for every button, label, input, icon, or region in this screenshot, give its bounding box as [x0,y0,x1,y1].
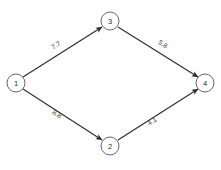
graph-svg: 7.7 5.8 8.8 4.1 1 2 3 4 [0,0,221,170]
edge-weight-2-4: 4.1 [146,115,158,126]
edge-weight-group: 7.7 5.8 8.8 4.1 [50,39,169,127]
edge-weight-1-3: 7.7 [50,39,62,50]
node-label-group: 1 2 3 4 [14,17,207,151]
node-label-1: 1 [14,79,18,88]
edge-1-to-2 [23,89,102,140]
node-label-3: 3 [108,17,112,26]
node-group [7,12,214,155]
node-label-2: 2 [108,142,112,151]
graph-diagram-canvas: 7.7 5.8 8.8 4.1 1 2 3 4 [0,0,221,170]
edge-2-to-4 [118,89,198,140]
node-label-4: 4 [203,79,207,88]
edge-weight-1-2: 8.8 [51,109,63,120]
edge-1-to-3 [23,27,102,77]
edge-3-to-4 [118,27,198,77]
edge-weight-3-4: 5.8 [157,39,169,50]
